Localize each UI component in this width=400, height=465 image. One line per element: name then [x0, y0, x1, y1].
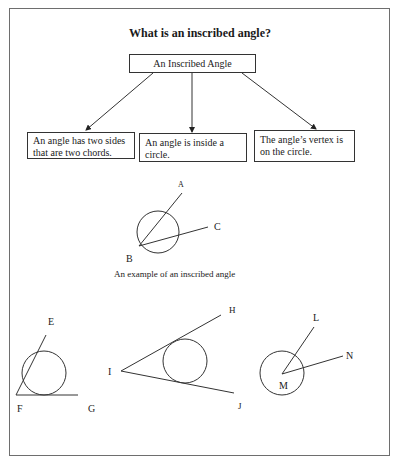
- example-circle: [137, 211, 179, 253]
- point-label-f: F: [17, 403, 23, 414]
- figure-efg-ray-fe: [16, 335, 46, 395]
- figure-lmn-ray-mn: [282, 356, 343, 374]
- arrow-to-vertex-on-circle: [242, 73, 316, 129]
- example-ray-bc: [139, 227, 208, 246]
- figure-efg-circle: [22, 351, 66, 395]
- point-label-l: L: [313, 312, 319, 323]
- point-label-i: I: [108, 366, 111, 377]
- geometry-drawing: [0, 0, 400, 465]
- figure-hij-ray-ij: [121, 371, 234, 393]
- point-label-g: G: [88, 403, 95, 414]
- point-label-m: M: [279, 380, 288, 391]
- figure-hij-circle: [163, 339, 207, 383]
- point-label-b: B: [126, 253, 133, 264]
- point-label-j: J: [238, 401, 242, 411]
- example-caption: An example of an inscribed angle: [114, 269, 235, 279]
- point-label-h: H: [229, 305, 236, 315]
- point-label-e: E: [48, 316, 54, 327]
- figure-hij-ray-ih: [121, 315, 221, 371]
- figure-lmn-ray-ml: [282, 327, 314, 374]
- point-label-n: N: [346, 350, 353, 361]
- point-label-c: C: [214, 221, 221, 232]
- example-ray-ba: [139, 193, 182, 246]
- arrow-to-chords: [86, 73, 153, 130]
- point-label-a: A: [178, 180, 184, 189]
